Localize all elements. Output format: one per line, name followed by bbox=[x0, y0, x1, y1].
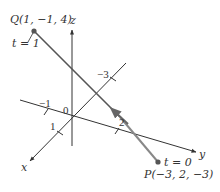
point-q bbox=[31, 28, 36, 33]
tick-label-y-neg: −1 bbox=[39, 97, 51, 109]
point-q-label: Q(1, −1, 4) bbox=[10, 13, 72, 26]
tick-label-y-pos: 2 bbox=[119, 116, 125, 128]
y-axis-label: y bbox=[198, 148, 206, 161]
x-axis-label: x bbox=[21, 161, 28, 174]
origin-label: 0 bbox=[63, 104, 69, 116]
tick-label-x-pos: 1 bbox=[50, 120, 56, 132]
point-p bbox=[155, 159, 160, 164]
point-p-label: P(−3, 2, −3) bbox=[143, 168, 213, 181]
point-q-param: t = 1 bbox=[12, 37, 40, 50]
tick-y-neg bbox=[44, 109, 48, 115]
3d-coordinate-diagram: z y x 0 −3 1 −1 2 Q(1, −1, 4) t = 1 t = … bbox=[0, 0, 220, 192]
tick-label-x-neg: −3 bbox=[97, 68, 109, 80]
